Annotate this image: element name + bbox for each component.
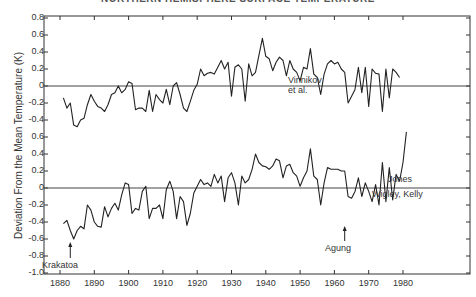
series-label-jones-top: Jones (388, 174, 412, 184)
annotation-agung: Agung (325, 243, 351, 253)
arrowhead-agung-icon (343, 226, 347, 231)
annotation-krakatoa: Krakatoa (42, 260, 78, 270)
series-line-1 (63, 132, 406, 239)
temperature-chart: NORTHERN HEMISPHERE SURFACE TEMPERATURE … (0, 0, 476, 297)
series-label-vinnikov: Vinnikov et al. (288, 75, 322, 95)
label-line: et al. (288, 85, 322, 95)
plot-area (0, 0, 476, 297)
series-label-jones-bottom: Wigley, Kelly (372, 189, 423, 199)
arrowhead-krakatoa-icon (68, 242, 72, 247)
plot-frame (44, 16, 470, 274)
series-line-0 (63, 38, 399, 126)
label-line: Vinnikov (288, 75, 322, 85)
